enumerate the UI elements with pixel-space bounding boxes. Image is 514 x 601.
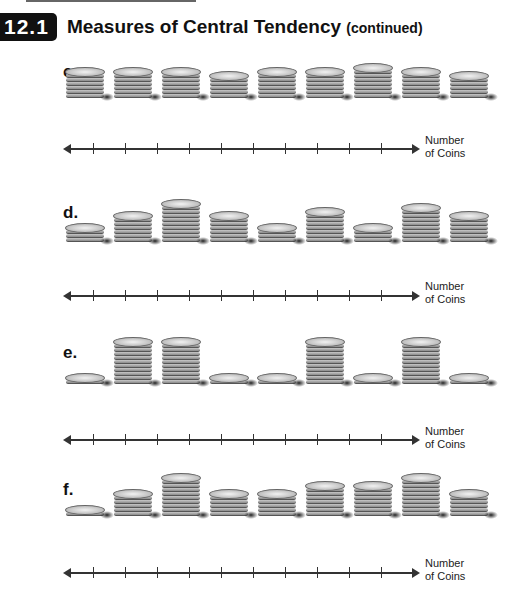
coin-face-icon [305,337,345,347]
tick-mark [253,143,254,154]
tick-mark [93,434,94,445]
coin-face-icon [401,337,441,347]
tick-mark [157,434,158,445]
coin-stack [254,373,300,384]
coin-icon [402,238,440,242]
tick-mark [221,567,222,578]
tick-mark [381,567,382,578]
coin-stack [302,67,348,98]
number-line [63,286,420,306]
coin-stack [158,199,204,242]
coin-stack [206,489,252,516]
coin-stacks [62,190,494,242]
coin-face-icon [305,207,345,217]
coin-icon [162,380,200,384]
tick-mark [349,290,350,301]
coin-face-icon [257,489,297,499]
coin-face-icon [401,473,441,483]
coin-icon [258,238,296,242]
tick-mark [221,290,222,301]
coin-stack [206,71,252,98]
axis-line [67,148,414,150]
tick-mark [157,567,158,578]
coin-face-icon [353,373,393,383]
coin-face-icon [161,473,201,483]
coin-icon [306,238,344,242]
tick-mark [381,434,382,445]
coin-stacks [62,50,494,98]
tick-mark [221,143,222,154]
tick-mark [125,567,126,578]
coin-stacks [62,330,494,384]
coin-icon [114,238,152,242]
coin-face-icon [353,63,393,73]
coin-stack [62,505,108,516]
coin-face-icon [209,489,249,499]
coin-stack [302,481,348,516]
coin-icon [354,238,392,242]
coin-stack [254,223,300,242]
left-arrow-icon [63,568,71,578]
coin-icon [162,94,200,98]
tick-mark [381,290,382,301]
coin-icon [162,238,200,242]
coin-face-icon [353,481,393,491]
axis-line [67,572,414,574]
coin-face-icon [257,373,297,383]
tick-mark [317,290,318,301]
coin-face-icon [401,67,441,77]
coin-stack [446,489,492,516]
coin-stack [254,67,300,98]
axis-label-line2: of Coins [425,438,465,451]
coin-stack [110,489,156,516]
number-line [63,139,420,159]
right-arrow-icon [412,144,420,154]
coin-stack [254,489,300,516]
coin-icon [306,380,344,384]
tick-mark [93,567,94,578]
left-arrow-icon [63,144,71,154]
axis-label: Number of Coins [425,557,465,583]
top-rule [26,0,196,2]
tick-mark [349,143,350,154]
tick-mark [381,143,382,154]
coin-stack [110,211,156,242]
coin-face-icon [449,373,489,383]
coin-icon [210,512,248,516]
coin-icon [354,512,392,516]
axis-label-line2: of Coins [425,147,465,160]
tick-mark [93,143,94,154]
tick-mark [285,567,286,578]
coin-face-icon [113,489,153,499]
coin-face-icon [449,211,489,221]
axis-label-line1: Number [425,134,465,147]
coin-face-icon [449,489,489,499]
right-arrow-icon [412,291,420,301]
coin-stack [110,67,156,98]
coin-icon [66,94,104,98]
number-line [63,563,420,583]
tick-mark [285,434,286,445]
coin-stack [158,337,204,384]
coin-stack [398,337,444,384]
stack-shadow [484,237,498,245]
coin-stack [446,211,492,242]
coin-stack [206,211,252,242]
coin-stack [446,373,492,384]
coin-stack [398,473,444,516]
coin-face-icon [113,67,153,77]
coin-icon [354,94,392,98]
axis-line [67,295,414,297]
coin-stack [350,373,396,384]
coin-stack [62,373,108,384]
coin-icon [66,238,104,242]
coin-icon [258,512,296,516]
coin-stack [302,207,348,242]
coin-face-icon [305,67,345,77]
tick-mark [189,143,190,154]
coin-stack [158,473,204,516]
page-title: Measures of Central Tendency (continued) [67,16,423,38]
tick-mark [157,143,158,154]
coin-stack [62,67,108,98]
coin-icon [450,238,488,242]
